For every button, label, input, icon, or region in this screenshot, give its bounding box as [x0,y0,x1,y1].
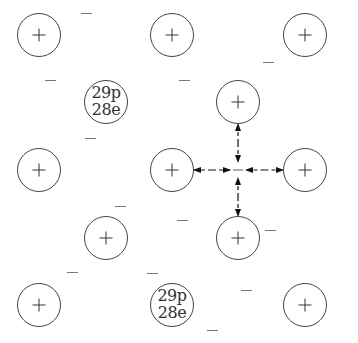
free-electron-minus-icon [241,290,252,291]
electron-count-label: 28e [151,304,193,321]
plus-icon [33,299,46,312]
plus-icon [299,299,312,312]
copper-ion-labeled: 29p28e [84,80,128,124]
proton-count-label: 29p [85,84,127,101]
plus-icon [100,232,113,245]
plus-icon [232,232,245,245]
positive-ion [150,13,194,57]
plus-icon [166,29,179,42]
free-electron-minus-icon [207,330,218,331]
positive-ion [17,148,61,192]
positive-ion [283,13,327,57]
plus-icon [33,29,46,42]
free-electron-minus-icon [265,230,276,231]
plus-icon [33,164,46,177]
positive-ion [216,216,260,260]
free-electron-minus-icon [85,138,96,139]
electron-count-label: 28e [85,101,127,118]
plus-icon [299,29,312,42]
positive-ion [17,283,61,327]
free-electron-minus-icon [81,13,92,14]
plus-icon [232,96,245,109]
free-electron-minus-icon [177,220,188,221]
free-electron-minus-icon [179,80,190,81]
free-electron-minus-icon [45,80,56,81]
free-electron-minus-icon [67,272,78,273]
free-electron-minus-icon [115,206,126,207]
positive-ion [84,216,128,260]
plus-icon [299,164,312,177]
free-electron-minus-icon [263,62,274,63]
metal-lattice-diagram: 29p28e29p28e [0,0,358,343]
proton-count-label: 29p [151,287,193,304]
plus-icon [166,164,179,177]
positive-ion [150,148,194,192]
positive-ion [283,148,327,192]
copper-ion-labeled: 29p28e [150,283,194,327]
positive-ion [216,80,260,124]
positive-ion [283,283,327,327]
free-electron-minus-icon [147,273,158,274]
positive-ion [17,13,61,57]
